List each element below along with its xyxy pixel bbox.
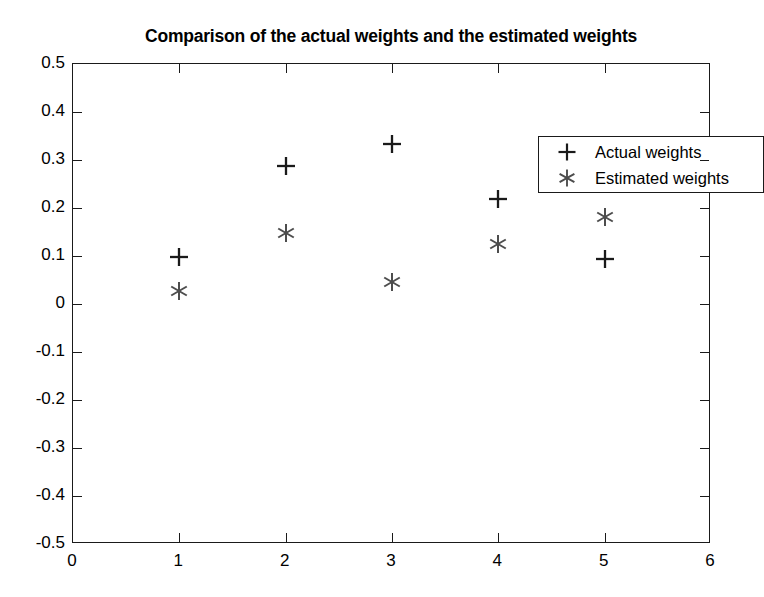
legend-label-actual-weights: Actual weights bbox=[595, 143, 701, 162]
plus-marker-icon bbox=[539, 141, 595, 163]
y-axis-tick-right bbox=[700, 496, 709, 497]
y-axis-tick-label: 0.1 bbox=[3, 245, 65, 265]
y-axis-tick bbox=[73, 496, 82, 497]
x-axis-tick bbox=[392, 533, 393, 542]
x-axis-tick bbox=[179, 533, 180, 542]
y-axis-tick-label: 0.4 bbox=[3, 101, 65, 121]
data-point-estimated bbox=[593, 205, 617, 229]
x-axis-tick-labels: 0123456 bbox=[72, 551, 710, 581]
x-axis-tick-label: 3 bbox=[371, 551, 411, 571]
data-point-actual bbox=[274, 154, 298, 178]
data-point-estimated bbox=[486, 232, 510, 256]
y-axis-tick-label: -0.5 bbox=[3, 533, 65, 553]
x-axis-tick-label: 5 bbox=[584, 551, 624, 571]
y-axis-tick-right bbox=[700, 256, 709, 257]
y-axis-tick bbox=[73, 352, 82, 353]
y-axis-tick-right bbox=[700, 400, 709, 401]
data-point-actual bbox=[380, 132, 404, 156]
y-axis-tick-label: 0.5 bbox=[3, 53, 65, 73]
x-axis-tick-top bbox=[605, 64, 606, 73]
data-point-actual bbox=[167, 245, 191, 269]
y-axis-tick bbox=[73, 304, 82, 305]
data-point-estimated bbox=[167, 279, 191, 303]
y-axis-tick-label: -0.4 bbox=[3, 485, 65, 505]
y-axis-tick bbox=[73, 160, 82, 161]
y-axis-tick-right bbox=[700, 352, 709, 353]
asterisk-marker-icon bbox=[539, 167, 595, 189]
x-axis-tick bbox=[286, 533, 287, 542]
chart-legend: Actual weights Estimated weights bbox=[538, 136, 764, 193]
legend-entry-actual-weights: Actual weights bbox=[539, 139, 763, 165]
y-axis-tick bbox=[73, 256, 82, 257]
y-axis-tick-label: -0.2 bbox=[3, 389, 65, 409]
y-axis-tick bbox=[73, 448, 82, 449]
data-point-actual bbox=[486, 187, 510, 211]
x-axis-tick bbox=[498, 533, 499, 542]
y-axis-tick-right bbox=[700, 112, 709, 113]
data-point-actual bbox=[593, 247, 617, 271]
plot-area: Actual weights Estimated weights bbox=[72, 63, 710, 543]
data-point-estimated bbox=[274, 221, 298, 245]
legend-entry-estimated-weights: Estimated weights bbox=[539, 165, 763, 191]
x-axis-tick-label: 1 bbox=[158, 551, 198, 571]
chart-title: Comparison of the actual weights and the… bbox=[72, 26, 710, 47]
y-axis-tick-label: -0.1 bbox=[3, 341, 65, 361]
y-axis-tick-right bbox=[700, 304, 709, 305]
x-axis-tick-label: 0 bbox=[52, 551, 92, 571]
x-axis-tick-label: 6 bbox=[690, 551, 730, 571]
y-axis-tick-label: 0 bbox=[3, 293, 65, 313]
data-point-estimated bbox=[380, 270, 404, 294]
y-axis-tick-right bbox=[700, 208, 709, 209]
x-axis-tick-top bbox=[179, 64, 180, 73]
y-axis-tick-right bbox=[700, 160, 709, 161]
legend-label-estimated-weights: Estimated weights bbox=[595, 169, 729, 188]
x-axis-tick-top bbox=[392, 64, 393, 73]
x-axis-tick-label: 2 bbox=[265, 551, 305, 571]
y-axis-tick-label: 0.3 bbox=[3, 149, 65, 169]
y-axis-tick-label: 0.2 bbox=[3, 197, 65, 217]
y-axis-tick-right bbox=[700, 448, 709, 449]
y-axis-tick-labels: 0.50.40.30.20.10-0.1-0.2-0.3-0.4-0.5 bbox=[0, 63, 65, 543]
x-axis-tick bbox=[605, 533, 606, 542]
y-axis-tick-label: -0.3 bbox=[3, 437, 65, 457]
x-axis-tick-label: 4 bbox=[477, 551, 517, 571]
x-axis-tick-top bbox=[286, 64, 287, 73]
y-axis-tick bbox=[73, 400, 82, 401]
x-axis-tick-top bbox=[498, 64, 499, 73]
y-axis-tick bbox=[73, 112, 82, 113]
y-axis-tick bbox=[73, 208, 82, 209]
